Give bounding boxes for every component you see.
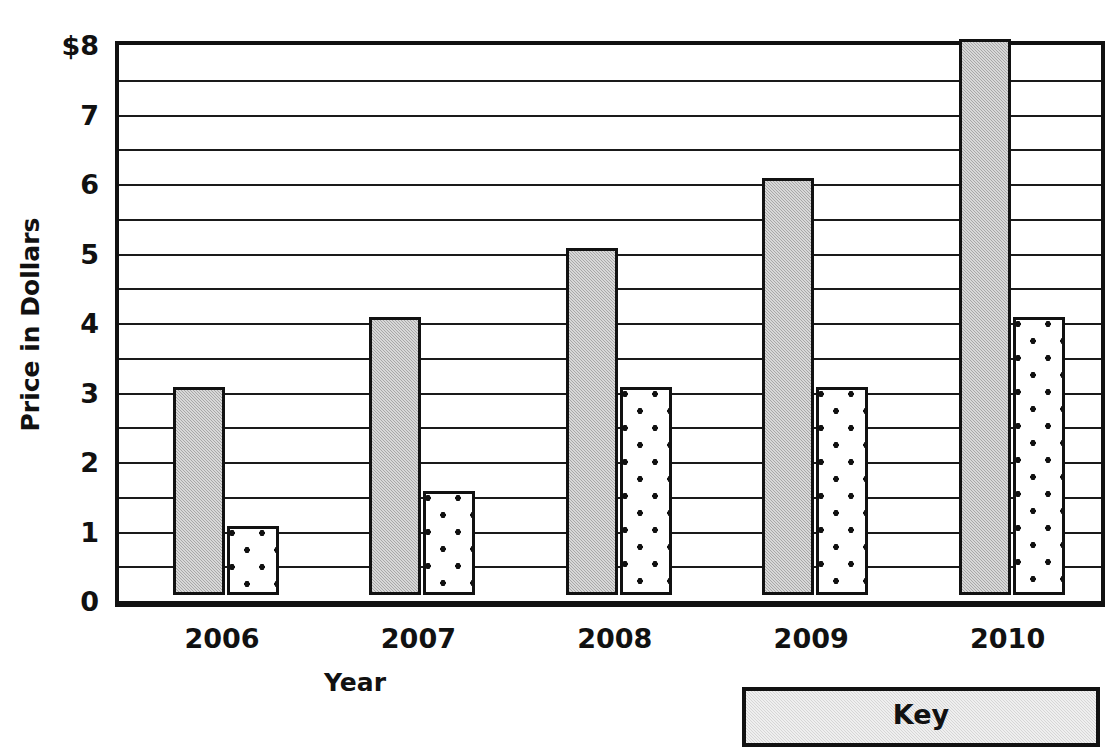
key-title: Key bbox=[746, 699, 1096, 730]
y-tick-label: 3 bbox=[80, 379, 99, 406]
x-tick-label: 2008 bbox=[577, 623, 652, 654]
bar-2006-a bbox=[173, 387, 225, 596]
bar-2007-a bbox=[369, 317, 421, 595]
x-tick-label: 2006 bbox=[184, 623, 259, 654]
y-tick-label: $8 bbox=[61, 32, 99, 59]
y-tick-label: 6 bbox=[80, 171, 99, 198]
y-tick-label: 7 bbox=[80, 101, 99, 128]
bar-2009-b bbox=[816, 387, 868, 596]
y-tick-label: 1 bbox=[80, 518, 99, 545]
bar-2008-a bbox=[566, 248, 618, 596]
y-axis-title: Price in Dollars bbox=[16, 175, 45, 475]
key-legend-box: Key bbox=[742, 687, 1100, 747]
x-tick-label: 2010 bbox=[970, 623, 1045, 654]
y-tick-label: 0 bbox=[80, 588, 99, 615]
bar-2009-a bbox=[762, 178, 814, 595]
bar-2007-b bbox=[423, 491, 475, 595]
bars-layer bbox=[119, 45, 1101, 601]
y-tick-label: 2 bbox=[80, 449, 99, 476]
x-axis-title: Year bbox=[0, 668, 710, 697]
x-tick-label: 2007 bbox=[381, 623, 456, 654]
bar-2006-b bbox=[227, 526, 279, 596]
x-tick-label: 2009 bbox=[774, 623, 849, 654]
plot-area bbox=[115, 41, 1105, 607]
bar-2008-b bbox=[620, 387, 672, 596]
y-tick-label: 4 bbox=[80, 310, 99, 337]
bar-2010-b bbox=[1013, 317, 1065, 595]
y-tick-label: 5 bbox=[80, 240, 99, 267]
bar-2010-a bbox=[959, 39, 1011, 595]
